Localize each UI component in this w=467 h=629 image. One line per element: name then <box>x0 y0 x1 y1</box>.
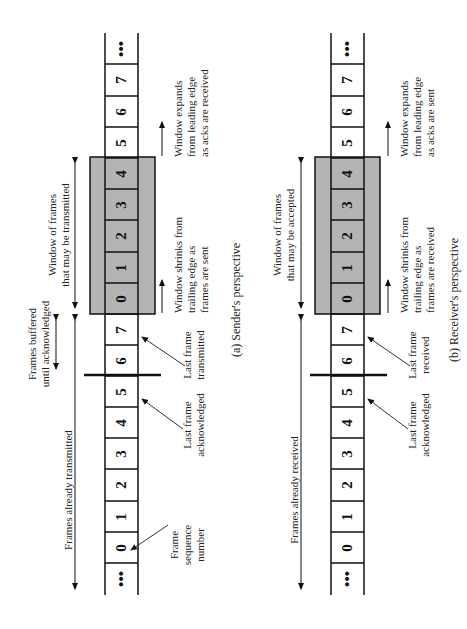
sender-expands-label: as acks are received <box>198 69 210 157</box>
receiver-cell: 1 <box>339 513 355 521</box>
receiver-cell: 2 <box>339 232 355 240</box>
sender-cell: 4 <box>113 419 129 427</box>
receiver-already-label: Frames already received <box>288 436 300 544</box>
receiver-panel: ••• 0 1 2 3 4 5 6 7 0 1 2 3 4 5 6 7 ••• … <box>271 33 461 595</box>
receiver-cell: ••• <box>339 41 355 57</box>
sender-last-ack-label: acknowledged <box>194 393 206 457</box>
receiver-cell: 2 <box>339 481 355 489</box>
sender-last-tx-label: transmitted <box>194 330 206 380</box>
sender-cell: 2 <box>113 481 129 489</box>
sender-expands-label: Window expands <box>172 81 184 157</box>
sender-shrinks-label: trailing edge as <box>185 246 197 313</box>
receiver-cell: 7 <box>339 76 355 84</box>
sender-buffered-label: Frames buffered <box>26 307 38 380</box>
sender-cell: 1 <box>113 513 129 521</box>
sender-cell: 4 <box>113 170 129 178</box>
sender-window-label: Window of frames <box>46 194 58 276</box>
sender-cell: 7 <box>113 326 129 334</box>
receiver-last-rx-label: Last frame <box>406 331 418 378</box>
sender-cell: 5 <box>113 139 129 147</box>
receiver-cell: 5 <box>339 388 355 396</box>
receiver-last-rx-pointer <box>368 337 410 366</box>
receiver-cell: 6 <box>339 108 355 116</box>
receiver-last-ack-label: Last frame <box>406 401 418 448</box>
sender-expands-label: from leading edge <box>185 77 197 157</box>
sender-seq-label: sequence <box>181 525 193 565</box>
sender-cell: ••• <box>113 571 129 587</box>
receiver-expands-label: from leading edge <box>411 77 423 157</box>
sender-last-tx-label: Last frame <box>181 331 193 378</box>
sliding-window-diagram: ••• 0 1 2 3 4 5 6 7 0 1 2 3 4 5 6 7 ••• … <box>0 0 467 629</box>
sender-seq-pointer <box>131 525 168 550</box>
sender-shrinks-label: frames are sent <box>198 246 210 313</box>
receiver-cell: 3 <box>339 201 355 209</box>
receiver-shrinks-label: Window shrinks from <box>398 216 410 313</box>
receiver-expands-label: Window expands <box>398 81 410 157</box>
receiver-cell: 1 <box>339 264 355 272</box>
sender-cell: 0 <box>113 295 129 303</box>
sender-cell: 6 <box>113 357 129 365</box>
sender-cell: 0 <box>113 544 129 552</box>
sender-window-label: that may be transmitted <box>59 183 71 287</box>
sender-seq-label: Frame <box>168 531 180 559</box>
sender-panel: ••• 0 1 2 3 4 5 6 7 0 1 2 3 4 5 6 7 ••• … <box>26 33 243 595</box>
receiver-cell: 4 <box>339 419 355 427</box>
receiver-last-ack-pointer <box>368 399 408 429</box>
receiver-cell: ••• <box>339 571 355 587</box>
receiver-expands-label: as acks are sent <box>424 89 436 157</box>
receiver-cell: 4 <box>339 170 355 178</box>
receiver-cell: 0 <box>339 544 355 552</box>
receiver-cell: 3 <box>339 450 355 458</box>
receiver-cell: 6 <box>339 357 355 365</box>
sender-cell: 1 <box>113 264 129 272</box>
sender-cell: 5 <box>113 388 129 396</box>
receiver-shrinks-label: trailing edge as <box>411 246 423 313</box>
sender-caption: (a) Sender's perspective <box>229 243 243 357</box>
sender-cell: 7 <box>113 76 129 84</box>
receiver-cell: 0 <box>339 295 355 303</box>
sender-buffered-label: until acknowledged <box>39 300 51 387</box>
receiver-window-label: that may be accepted <box>284 188 296 281</box>
receiver-last-rx-label: received <box>419 336 431 374</box>
receiver-last-ack-label: acknowledged <box>419 393 431 457</box>
sender-cell: 3 <box>113 450 129 458</box>
receiver-window-label: Window of frames <box>271 194 283 276</box>
sender-shrinks-label: Window shrinks from <box>172 216 184 313</box>
sender-cell: ••• <box>113 41 129 57</box>
sender-cell: 3 <box>113 201 129 209</box>
sender-already-label: Frames already transmitted <box>62 430 74 550</box>
receiver-caption: (b) Receiver's perspective <box>447 238 461 362</box>
receiver-cell: 5 <box>339 139 355 147</box>
sender-last-ack-label: Last frame <box>181 401 193 448</box>
sender-seq-label: number <box>194 528 206 562</box>
receiver-shrinks-label: frames are received <box>424 226 436 313</box>
receiver-cell: 7 <box>339 326 355 334</box>
sender-last-tx-pointer <box>142 337 185 366</box>
sender-cell: 6 <box>113 108 129 116</box>
sender-last-ack-pointer <box>142 399 183 429</box>
sender-cell: 2 <box>113 232 129 240</box>
